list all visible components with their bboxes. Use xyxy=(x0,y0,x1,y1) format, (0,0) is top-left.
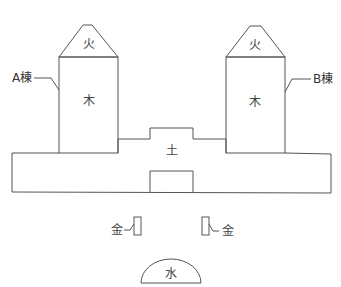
base-platform xyxy=(12,153,331,193)
building-b-label: B棟 xyxy=(313,71,333,86)
building-b-body-element: 木 xyxy=(249,95,261,109)
metal-marker-right-leader xyxy=(209,224,219,231)
building-a-label: A棟 xyxy=(12,70,32,85)
entrance-door xyxy=(150,171,193,193)
water-element: 水 xyxy=(165,267,177,281)
metal-marker-left-leader xyxy=(124,224,134,230)
base-element: 土 xyxy=(166,144,178,158)
metal-marker-left-element: 金 xyxy=(111,222,123,237)
building-a-leader-line xyxy=(34,78,59,90)
metal-marker-right-element: 金 xyxy=(222,223,234,238)
five-elements-diagram: 火 木 A棟 火 木 B棟 土 金 金 水 xyxy=(0,0,341,287)
building-b-leader-line xyxy=(285,79,311,92)
metal-marker-left xyxy=(134,217,141,235)
connector-roofline xyxy=(118,128,226,139)
building-a-roof-element: 火 xyxy=(83,37,95,51)
building-a-body-element: 木 xyxy=(83,94,95,108)
building-b-roof-element: 火 xyxy=(249,38,261,52)
metal-marker-right xyxy=(202,217,209,235)
